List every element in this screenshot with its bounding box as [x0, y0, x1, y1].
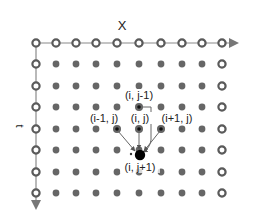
interior-node	[93, 147, 100, 154]
interior-node	[93, 104, 100, 111]
interior-node	[53, 126, 60, 133]
interior-node	[53, 147, 60, 154]
interior-node	[158, 61, 165, 68]
stencil-node-core-im1_j	[115, 127, 119, 131]
boundary-node	[218, 82, 225, 89]
interior-node	[73, 83, 80, 90]
interior-node	[179, 126, 186, 133]
boundary-node	[157, 39, 164, 46]
interior-node	[53, 169, 60, 176]
target-node-dot	[135, 150, 145, 160]
interior-node	[179, 61, 186, 68]
interior-node	[158, 190, 165, 197]
boundary-node	[72, 39, 79, 46]
boundary-node	[52, 39, 59, 46]
interior-node	[114, 190, 121, 197]
interior-node	[199, 61, 206, 68]
stencil-node-core-i_jm1	[137, 105, 141, 109]
interior-node	[114, 61, 121, 68]
interior-node	[93, 61, 100, 68]
interior-node	[73, 147, 80, 154]
boundary-node	[218, 103, 225, 110]
interior-node	[93, 126, 100, 133]
boundary-node	[92, 39, 99, 46]
interior-node	[158, 104, 165, 111]
label-i-j: (i, j)	[131, 112, 149, 124]
t-axis-label: t	[14, 124, 26, 127]
interior-node	[199, 83, 206, 90]
stencil-node-core-ip1_j	[159, 127, 163, 131]
boundary-node	[218, 125, 225, 132]
boundary-node	[218, 146, 225, 153]
interior-node	[93, 169, 100, 176]
interior-node	[53, 83, 60, 90]
interior-node	[93, 83, 100, 90]
interior-node	[73, 61, 80, 68]
arrow-from-ip1-j	[144, 131, 160, 151]
target-node	[135, 150, 145, 160]
interior-node	[136, 61, 143, 68]
interior-node	[53, 190, 60, 197]
small-marker-dot	[130, 153, 132, 155]
interior-node	[114, 169, 121, 176]
interior-node	[199, 169, 206, 176]
interior-node	[114, 83, 121, 90]
boundary-node	[32, 103, 39, 110]
label-im1-j: (i-1, j)	[90, 112, 118, 124]
arrow-from-im1-j	[118, 131, 135, 151]
boundary-node	[113, 39, 120, 46]
boundary-node	[218, 168, 225, 175]
boundary-node	[32, 168, 39, 175]
boundary-node	[32, 60, 39, 67]
boundary-node	[32, 39, 39, 46]
interior-node	[199, 126, 206, 133]
interior-node	[179, 104, 186, 111]
interior-node	[158, 83, 165, 90]
interior-node	[114, 104, 121, 111]
interior-node	[73, 126, 80, 133]
x-axis-label: X	[118, 18, 127, 33]
interior-node	[136, 190, 143, 197]
interior-node	[93, 190, 100, 197]
boundary-node	[218, 39, 225, 46]
interior-node	[179, 147, 186, 154]
interior-node	[179, 83, 186, 90]
interior-node	[73, 190, 80, 197]
interior-node	[53, 104, 60, 111]
boundary-node	[32, 82, 39, 89]
interior-node	[158, 147, 165, 154]
label-i-jm1: (i, j-1)	[125, 89, 153, 101]
stencil-diagram: X t (i, j-1) (i-1, j)	[0, 0, 258, 222]
interior-node	[199, 190, 206, 197]
boundary-node	[218, 60, 225, 67]
boundary-node	[178, 39, 185, 46]
interior-node	[114, 147, 121, 154]
boundary-node	[218, 189, 225, 196]
boundary-node	[32, 146, 39, 153]
boundary-node	[32, 189, 39, 196]
label-i-jp1: (i, j+1)	[125, 161, 156, 173]
interior-node	[199, 104, 206, 111]
boundary-node	[135, 39, 142, 46]
boundary-node	[198, 39, 205, 46]
interior-node	[73, 169, 80, 176]
interior-node	[73, 104, 80, 111]
interior-node	[53, 61, 60, 68]
label-ip1-j: (i+1, j)	[162, 112, 193, 124]
interior-node	[199, 147, 206, 154]
interior-node	[179, 169, 186, 176]
boundary-node	[32, 125, 39, 132]
stencil-node-core-i_j	[137, 127, 141, 131]
interior-node	[179, 190, 186, 197]
